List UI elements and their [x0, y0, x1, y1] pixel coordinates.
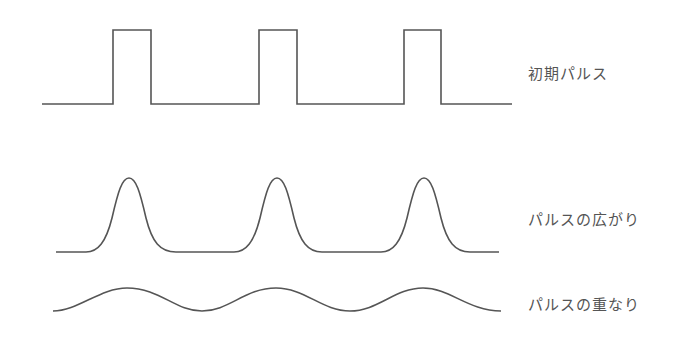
- overlap-pulse-waveform: [53, 288, 501, 311]
- initial-pulse-label: 初期パルス: [528, 62, 608, 83]
- pulse-overlap-label: パルスの重なり: [528, 293, 640, 314]
- initial-pulse-waveform: [42, 30, 512, 104]
- pulse-spread-label: パルスの広がり: [528, 208, 640, 229]
- spread-pulse-waveform: [56, 178, 499, 252]
- pulse-diagram: [0, 0, 690, 337]
